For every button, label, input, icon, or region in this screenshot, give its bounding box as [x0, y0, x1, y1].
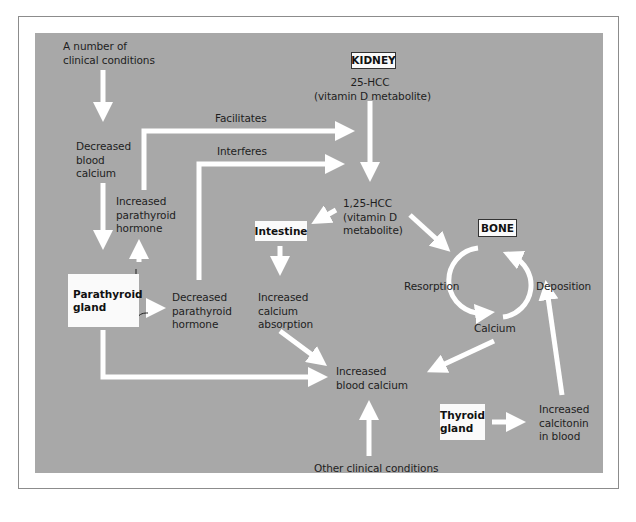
label-25-hcc: 25-HCC (vitamin D metabolite) [314, 76, 426, 103]
node-thyroid-gland: Thyroid gland [440, 404, 485, 440]
arrow-absorption-to-blood-calcium [280, 331, 319, 360]
node-bone: BONE [478, 219, 517, 237]
arrow-facilitates [144, 131, 345, 190]
label-increased-parathyroid-hormone: Increased parathyroid hormone [116, 195, 176, 236]
arrow-deposition-arc [503, 256, 531, 317]
label-interferes: Interferes [217, 145, 267, 159]
label-clinical-conditions: A number of clinical conditions [63, 40, 155, 67]
label-resorption: Resorption [404, 280, 459, 294]
node-intestine: Intestine [255, 221, 307, 241]
arrow-125hcc-to-intestine [320, 210, 336, 219]
label-increased-calcium-absorption: Increased calcium absorption [258, 291, 313, 332]
label-increased-blood-calcium: Increased blood calcium [336, 365, 408, 392]
label-other-clinical-conditions: Other clinical conditions [314, 462, 438, 476]
arrow-125hcc-to-bone [410, 215, 443, 245]
node-parathyroid-gland: Parathyroid gland [68, 274, 139, 327]
node-kidney: KIDNEY [351, 52, 396, 69]
label-deposition: Deposition [536, 280, 591, 294]
label-decreased-parathyroid-hormone: Decreased parathyroid hormone [172, 291, 232, 332]
label-increased-calcitonin: Increased calcitonin in blood [539, 403, 589, 444]
label-calcium: Calcium [474, 322, 516, 336]
label-decreased-blood-calcium: Decreased blood calcium [76, 140, 131, 181]
arrow-bone-calcium-to-blood-calcium [436, 341, 494, 368]
label-facilitates: Facilitates [215, 112, 267, 126]
label-125-hcc: 1,25-HCC (vitamin D metabolite) [343, 197, 403, 238]
arrow-calcitonin-to-deposition [547, 290, 562, 395]
